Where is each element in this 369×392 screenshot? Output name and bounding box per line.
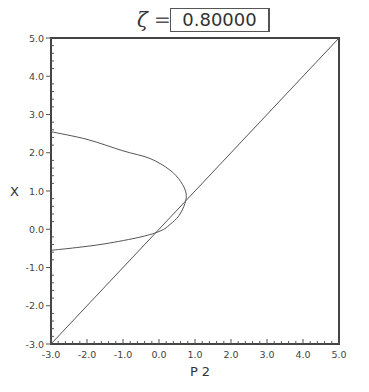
y-tick-label: 3.0: [29, 109, 44, 120]
x-tick-label: 4.0: [295, 349, 310, 360]
plot-area: -3.0-2.0-1.00.01.02.03.04.05.0-3.0-2.0-1…: [0, 0, 369, 392]
x-tick-label: -2.0: [78, 349, 97, 360]
y-tick-label: 1.0: [29, 186, 44, 197]
y-tick-label: 4.0: [29, 71, 44, 82]
x-tick-label: 5.0: [331, 349, 346, 360]
y-tick-label: 5.0: [29, 33, 44, 44]
x-tick-label: -1.0: [114, 349, 133, 360]
y-tick-label: 2.0: [29, 147, 44, 158]
x-tick-label: 3.0: [259, 349, 274, 360]
x-tick-label: -3.0: [42, 349, 61, 360]
x-tick-label: 0.0: [151, 349, 166, 360]
y-tick-label: -3.0: [25, 339, 44, 350]
y-axis-label: X: [10, 184, 19, 199]
x-axis-label: P 2: [190, 364, 210, 379]
x-tick-label: 2.0: [223, 349, 238, 360]
identity-line: [51, 38, 339, 344]
solution-curve: [51, 132, 186, 251]
y-tick-label: 0.0: [29, 224, 44, 235]
x-tick-label: 1.0: [187, 349, 202, 360]
y-tick-label: -2.0: [25, 300, 44, 311]
y-tick-label: -1.0: [25, 262, 44, 273]
